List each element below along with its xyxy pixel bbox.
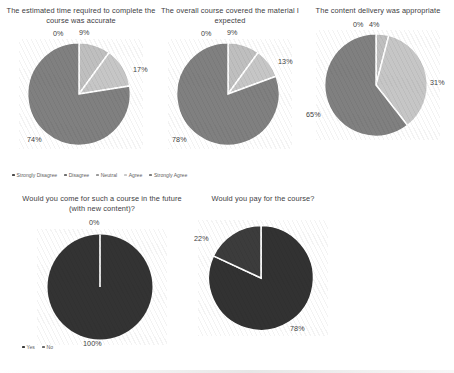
pie-svg <box>316 30 436 140</box>
legend-item-agree[interactable]: Agree <box>124 172 142 178</box>
pie-graphic: 0% 4% 31% 65% <box>316 30 440 140</box>
likert-legend: Strongly Disagree Disagree Neutral Agree… <box>12 172 187 178</box>
legend-label: Strongly Disagree <box>17 172 58 178</box>
pie-chart-estimated-time: The estimated time required to complete … <box>6 6 156 149</box>
legend-label: Strongly Agree <box>154 172 187 178</box>
pie-graphic: 0% 9% 17% 74% <box>19 39 143 149</box>
legend-item-neutral[interactable]: Neutral <box>96 172 117 178</box>
chart-title: The estimated time required to complete … <box>6 6 156 25</box>
legend-item-disagree[interactable]: Disagree <box>64 172 89 178</box>
slice-label-1: 4% <box>369 20 380 29</box>
legend-item-strongly-agree[interactable]: Strongly Agree <box>149 172 187 178</box>
legend-item-yes[interactable]: Yes <box>22 344 35 350</box>
legend-label: Disagree <box>69 172 89 178</box>
pie-chart-pay-for-course: Would you pay for the course? 22% 78% <box>188 194 338 336</box>
legend-item-no[interactable]: No <box>42 344 53 350</box>
pie-chart-future-course: Would you come for such a course in the … <box>18 194 186 345</box>
legend-swatch-icon <box>149 174 152 177</box>
slice-label-2: 17% <box>133 65 148 74</box>
slice-label-0: 22% <box>194 234 209 243</box>
pie-graphic: 0% 9% 13% 78% <box>168 39 292 149</box>
pie-graphic: 22% 78% <box>198 220 328 336</box>
slice-label-2: 13% <box>278 57 293 66</box>
legend-swatch-icon <box>64 174 67 177</box>
legend-swatch-icon <box>22 346 25 349</box>
chart-title: The content delivery was appropriate <box>308 6 448 16</box>
slice-label-0: 0% <box>53 29 64 38</box>
legend-label: Agree <box>129 172 143 178</box>
pie-chart-content-delivery: The content delivery was appropriate 0% … <box>308 6 448 140</box>
legend-label: No <box>47 344 54 350</box>
chart-title: Would you come for such a course in the … <box>18 194 186 213</box>
legend-swatch-icon <box>124 174 127 177</box>
slice-label-1: 78% <box>290 324 305 333</box>
pie-svg <box>198 220 324 336</box>
legend-swatch-icon <box>42 346 45 349</box>
slice-label-0: 0% <box>89 218 100 227</box>
yesno-legend: Yes No <box>22 344 53 350</box>
legend-item-strongly-disagree[interactable]: Strongly Disagree <box>12 172 57 178</box>
legend-label: Yes <box>27 344 35 350</box>
slice-label-0: 0% <box>201 29 212 38</box>
figure-canvas: The estimated time required to complete … <box>0 0 454 373</box>
slice-label-1: 9% <box>227 28 238 37</box>
legend-swatch-icon <box>96 174 99 177</box>
chart-title: Would you pay for the course? <box>188 194 338 204</box>
slice-label-3: 78% <box>172 135 187 144</box>
chart-title: The overall course covered the material … <box>158 6 302 25</box>
pie-chart-material-expected: The overall course covered the material … <box>158 6 302 149</box>
pie-svg <box>19 39 139 149</box>
legend-label: Neutral <box>101 172 117 178</box>
pie-svg <box>168 39 288 149</box>
slice-label-1: 9% <box>79 28 90 37</box>
slice-label-3: 65% <box>306 110 321 119</box>
pie-graphic: 0% 100% <box>37 229 167 345</box>
pie-svg <box>37 229 163 345</box>
slice-label-0: 0% <box>353 20 364 29</box>
slice-label-2: 31% <box>430 78 445 87</box>
slice-label-1: 100% <box>83 339 102 348</box>
legend-swatch-icon <box>12 174 15 177</box>
slice-label-3: 74% <box>27 135 42 144</box>
